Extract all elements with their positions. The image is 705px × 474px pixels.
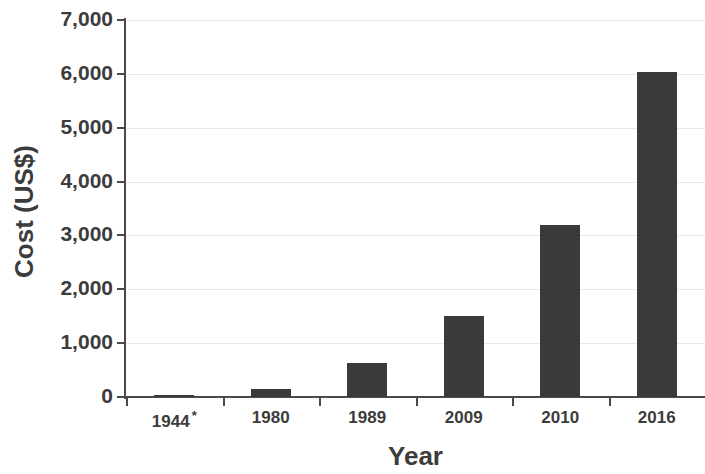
y-axis-tick-labels: 01,0002,0003,0004,0005,0006,0007,000 — [0, 0, 113, 474]
bar — [637, 72, 677, 397]
x-axis-tick — [319, 398, 321, 406]
y-axis-tick-label: 7,000 — [13, 7, 113, 31]
y-axis-tick — [117, 127, 125, 129]
x-axis-tick-label: 2016 — [609, 408, 705, 428]
x-axis-tick — [126, 398, 128, 406]
y-axis-tick — [117, 19, 125, 21]
x-axis-tick — [416, 398, 418, 406]
bars-container — [126, 20, 705, 397]
y-axis-tick — [117, 288, 125, 290]
footnote-marker-icon: * — [192, 408, 197, 423]
y-axis-tick — [117, 234, 125, 236]
y-axis-tick — [117, 181, 125, 183]
y-axis-tick — [117, 342, 125, 344]
y-axis-tick-label: 5,000 — [13, 115, 113, 139]
x-axis-tick-labels: 1944*19801989200920102016 — [126, 408, 705, 434]
y-axis-tick-label: 1,000 — [13, 330, 113, 354]
x-axis-tick-label: 2009 — [416, 408, 513, 428]
y-axis-tick-label: 2,000 — [13, 276, 113, 300]
x-axis-tick — [223, 398, 225, 406]
x-axis-tick — [512, 398, 514, 406]
y-axis-tick-label: 4,000 — [13, 169, 113, 193]
y-axis-tick-label: 0 — [13, 384, 113, 408]
bar — [154, 395, 194, 397]
x-axis-tick-label: 2010 — [512, 408, 609, 428]
y-axis-tick-label: 3,000 — [13, 222, 113, 246]
bar — [251, 389, 291, 397]
y-axis-tick-label: 6,000 — [13, 61, 113, 85]
x-axis-tick — [609, 398, 611, 406]
x-axis-tick-label: 1980 — [223, 408, 320, 428]
bar — [540, 225, 580, 397]
x-axis-tick-label: 1989 — [319, 408, 416, 428]
bar-chart: Cost (US$) 01,0002,0003,0004,0005,0006,0… — [0, 0, 705, 474]
y-axis-tick — [117, 396, 125, 398]
y-axis-tick — [117, 73, 125, 75]
bar — [347, 363, 387, 397]
x-axis-title: Year — [126, 441, 705, 472]
x-axis-tick-label: 1944* — [126, 408, 223, 432]
bar — [444, 316, 484, 397]
